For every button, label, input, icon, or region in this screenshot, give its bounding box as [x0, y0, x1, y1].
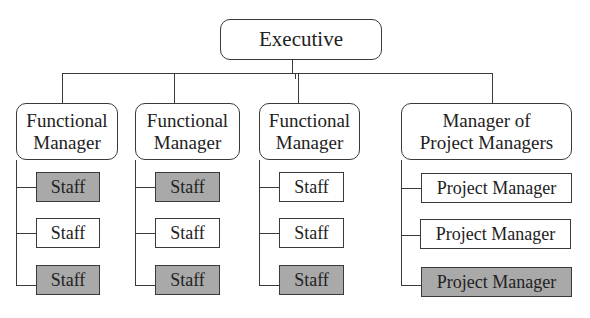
staff-label: Staff: [170, 223, 205, 243]
staff-box: Staff: [279, 172, 344, 202]
functional-manager-2: Functional Manager: [135, 103, 240, 160]
manager-label: Manager of Project Managers: [420, 110, 553, 153]
manager-label: Functional Manager: [26, 110, 107, 153]
project-manager-label: Project Manager: [437, 178, 556, 198]
col2-spine: [135, 160, 136, 286]
col2-branch-1: [135, 187, 155, 188]
horizontal-bus: [62, 73, 493, 74]
staff-label: Staff: [51, 223, 86, 243]
col1-branch-3: [16, 285, 36, 286]
project-manager-box: Project Manager: [420, 219, 571, 249]
staff-label: Staff: [170, 177, 205, 197]
manager-of-project-managers: Manager of Project Managers: [401, 103, 572, 160]
col3-branch-1: [259, 187, 279, 188]
project-manager-label: Project Manager: [437, 272, 556, 292]
functional-manager-3: Functional Manager: [259, 103, 360, 160]
col4-spine: [401, 160, 402, 286]
col3-spine: [259, 160, 260, 286]
staff-label: Staff: [51, 270, 86, 290]
staff-box: Staff: [155, 218, 220, 248]
staff-box: Staff: [36, 265, 100, 295]
col4-branch-3: [401, 285, 421, 286]
col4-drop: [492, 73, 493, 103]
executive-label: Executive: [259, 28, 343, 52]
col4-branch-2: [401, 235, 421, 236]
col2-branch-3: [135, 285, 155, 286]
col3-branch-3: [259, 285, 279, 286]
col1-branch-2: [16, 233, 36, 234]
executive-box: Executive: [220, 19, 382, 60]
project-manager-label: Project Manager: [436, 224, 555, 244]
staff-label: Staff: [294, 270, 329, 290]
staff-label: Staff: [294, 223, 329, 243]
staff-box: Staff: [279, 218, 344, 248]
col3-drop: [298, 73, 299, 103]
staff-box: Staff: [36, 218, 100, 248]
manager-label: Functional Manager: [269, 110, 350, 153]
col1-drop: [62, 73, 63, 103]
col4-branch-1: [401, 188, 421, 189]
col2-drop: [174, 73, 175, 103]
project-manager-box: Project Manager: [421, 267, 572, 297]
staff-box: Staff: [36, 172, 100, 202]
col1-spine: [16, 160, 17, 286]
staff-box: Staff: [279, 265, 344, 295]
staff-label: Staff: [51, 177, 86, 197]
functional-manager-1: Functional Manager: [16, 103, 118, 160]
project-manager-box: Project Manager: [421, 173, 572, 203]
staff-box: Staff: [155, 172, 220, 202]
staff-label: Staff: [294, 177, 329, 197]
staff-label: Staff: [170, 270, 205, 290]
exec-down-connector: [292, 60, 293, 73]
col1-branch-1: [16, 187, 36, 188]
col2-branch-2: [135, 233, 155, 234]
col3-branch-2: [259, 233, 279, 234]
manager-label: Functional Manager: [147, 110, 228, 153]
staff-box: Staff: [155, 265, 220, 295]
